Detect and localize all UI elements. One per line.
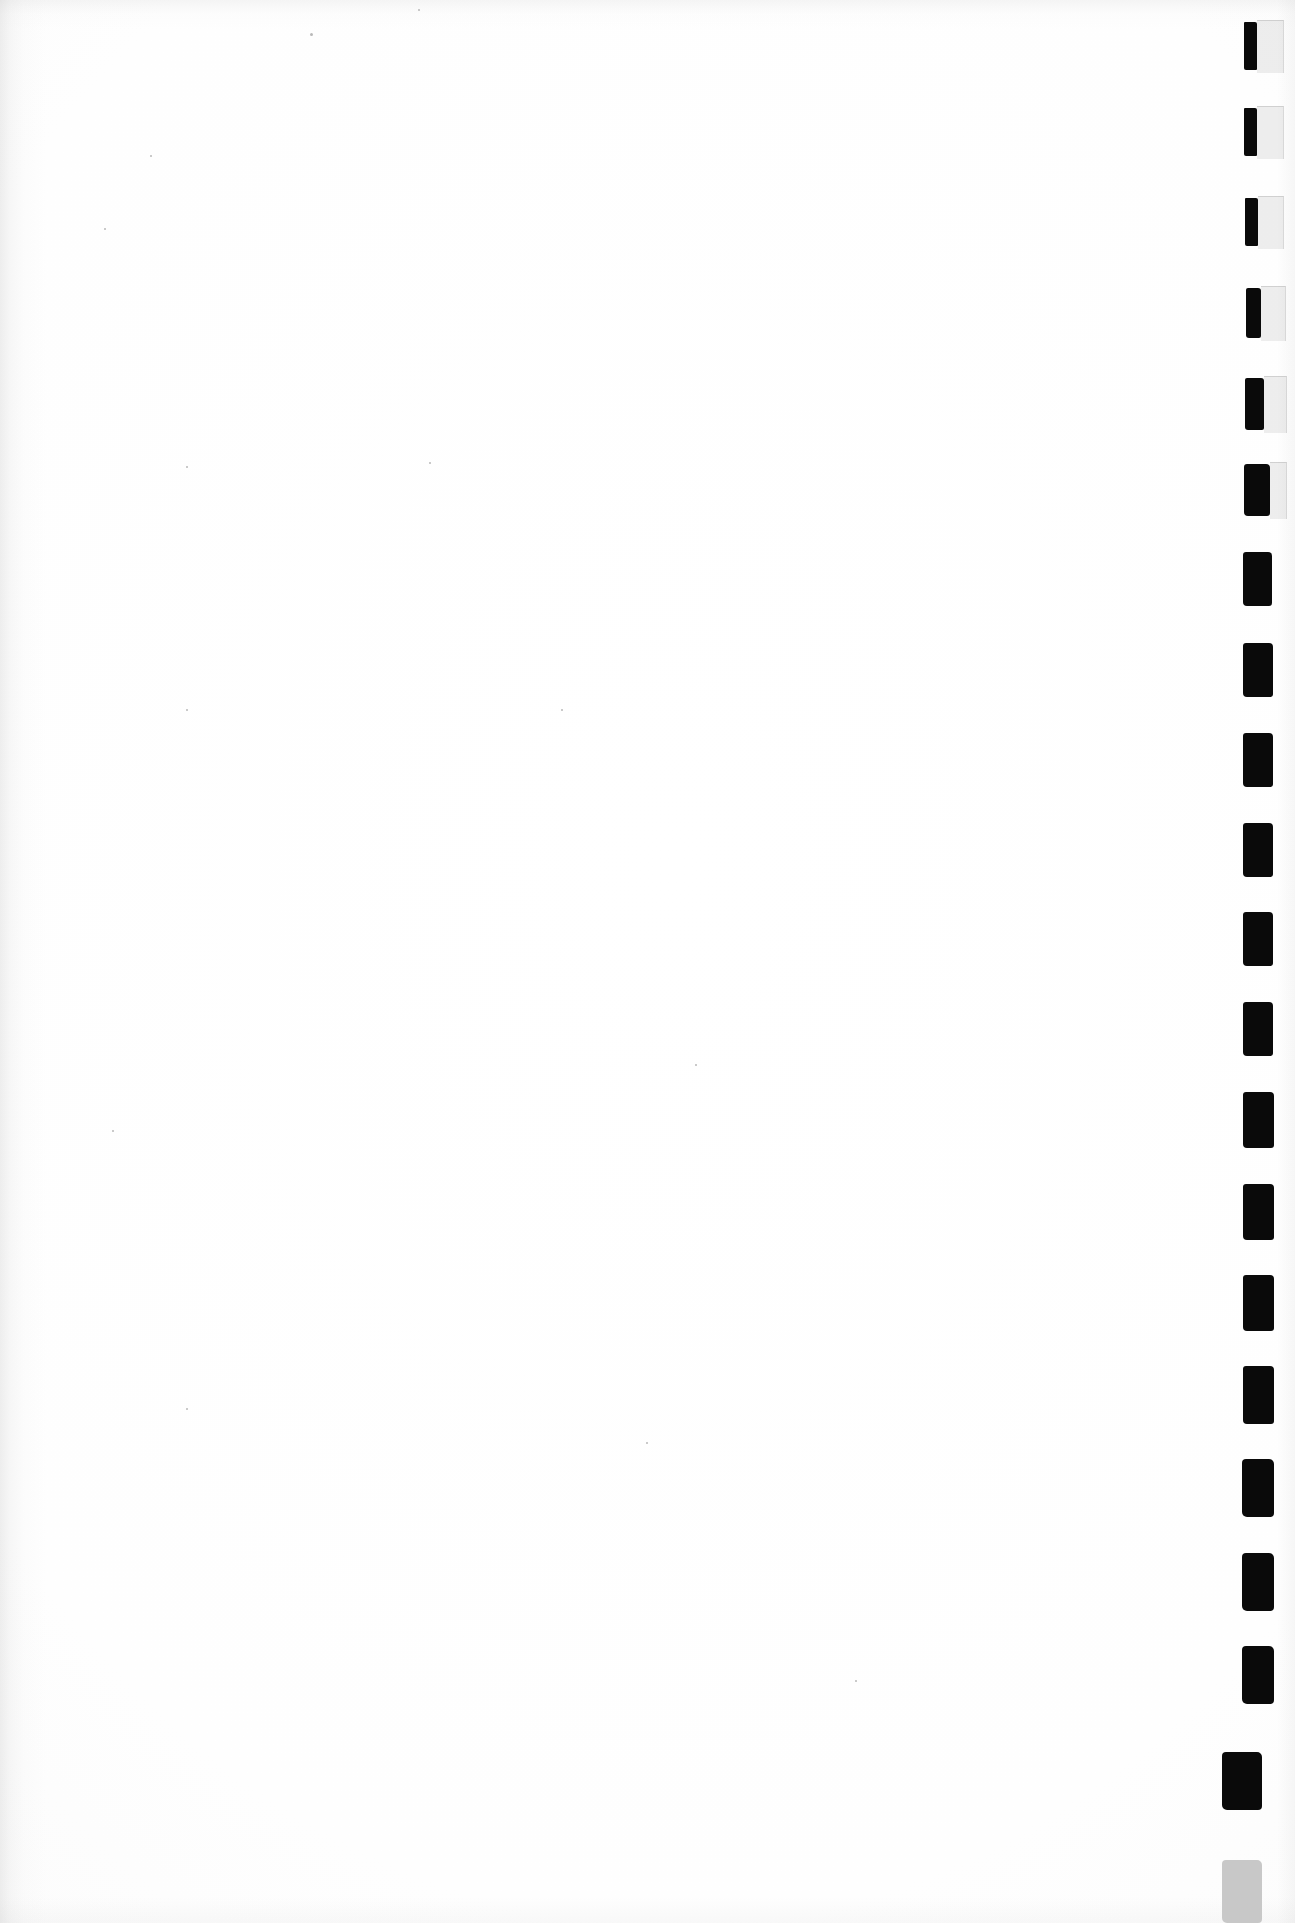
- thumb-index-tab: [1242, 1553, 1274, 1611]
- thumb-index-tab: [1242, 1646, 1274, 1704]
- thumb-index-tab: [1243, 552, 1272, 606]
- scan-speck: [429, 462, 431, 464]
- thumb-index-tab: [1242, 1459, 1274, 1517]
- thumb-index-tab-ghost: [1257, 20, 1284, 73]
- blank-page-content: [0, 0, 1175, 1923]
- thumb-index-tab-ghost: [1264, 376, 1287, 433]
- scan-speck: [310, 33, 313, 36]
- scan-speck: [855, 1680, 857, 1682]
- thumb-index-tab: [1245, 198, 1258, 246]
- thumb-index-tab: [1243, 643, 1273, 697]
- scan-speck: [646, 1442, 648, 1444]
- thumb-index-tab: [1243, 1092, 1274, 1148]
- scan-speck: [695, 1064, 697, 1066]
- thumb-index-tab: [1243, 912, 1273, 966]
- scan-speck: [561, 709, 563, 711]
- thumb-index-tab: [1244, 464, 1270, 516]
- thumb-index-tab: [1243, 823, 1273, 877]
- thumb-index-tab: [1245, 378, 1264, 430]
- thumb-index-tab: [1243, 1184, 1274, 1240]
- scanned-page: [0, 0, 1295, 1923]
- scan-speck: [150, 155, 152, 157]
- thumb-index-tab: [1222, 1752, 1262, 1810]
- thumb-index-tab: [1244, 22, 1257, 70]
- thumb-index-tab: [1244, 108, 1257, 156]
- thumb-index-tab-ghost: [1261, 286, 1286, 341]
- thumb-index-tab-ghost: [1257, 106, 1284, 159]
- thumb-index-tab: [1222, 1860, 1262, 1923]
- scan-speck: [186, 709, 188, 711]
- thumb-index-tab: [1246, 288, 1261, 338]
- thumb-index-tab: [1243, 1002, 1273, 1056]
- thumb-index-tab: [1243, 1366, 1274, 1424]
- thumb-index-tab-column: [1175, 0, 1295, 1923]
- scan-speck: [186, 466, 188, 468]
- thumb-index-tab: [1243, 1275, 1274, 1331]
- thumb-index-tab-ghost: [1270, 462, 1287, 519]
- thumb-index-tab-ghost: [1258, 196, 1284, 249]
- scan-speck: [418, 9, 420, 11]
- scan-speck: [104, 228, 106, 230]
- scan-speck: [186, 1408, 188, 1410]
- scan-speck: [112, 1130, 114, 1132]
- thumb-index-tab: [1243, 733, 1273, 787]
